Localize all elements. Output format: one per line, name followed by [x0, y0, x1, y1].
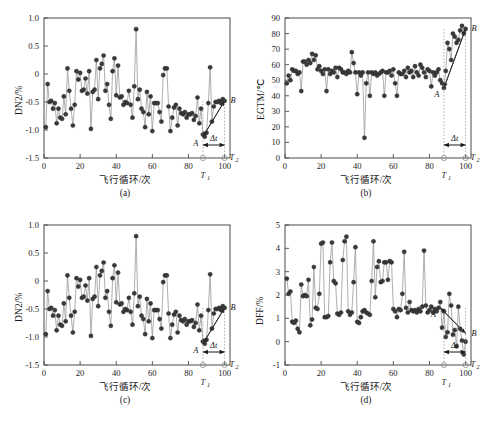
svg-text:40: 40 — [112, 368, 121, 378]
svg-text:0: 0 — [276, 153, 280, 163]
svg-text:30: 30 — [271, 106, 280, 116]
svg-text:80: 80 — [184, 368, 193, 378]
svg-text:-1: -1 — [273, 360, 280, 370]
panel-b: EGTM/℃ 飞行循环/次 (b) 0102030405060708090020… — [241, 0, 482, 211]
svg-text:3: 3 — [276, 267, 280, 277]
svg-text:100: 100 — [218, 368, 231, 378]
svg-text:1.0: 1.0 — [28, 220, 39, 230]
svg-text:A: A — [192, 139, 199, 148]
panel-c: DN2/% 飞行循环/次 (c) -1.5-1.0-0.500.51.00204… — [0, 207, 241, 418]
svg-text:0: 0 — [42, 161, 46, 171]
svg-text:-0.5: -0.5 — [25, 304, 39, 314]
svg-text:1: 1 — [448, 381, 451, 388]
svg-text:0: 0 — [42, 368, 46, 378]
svg-text:80: 80 — [425, 368, 434, 378]
panel-c-plot: -1.5-1.0-0.500.51.0020406080100ABΔtT1T2 — [0, 207, 241, 418]
svg-text:Δt: Δt — [209, 134, 218, 143]
svg-text:-1.0: -1.0 — [25, 332, 39, 342]
svg-text:Δt: Δt — [450, 341, 459, 350]
svg-text:100: 100 — [459, 161, 472, 171]
svg-text:0: 0 — [35, 69, 39, 79]
svg-text:1: 1 — [276, 313, 280, 323]
svg-text:0: 0 — [276, 337, 280, 347]
svg-text:5: 5 — [276, 220, 280, 230]
panel-a-plot: -1.5-1.0-0.500.51.0020406080100ABΔtT1T2 — [0, 0, 241, 211]
svg-text:Δt: Δt — [450, 134, 459, 143]
svg-text:100: 100 — [459, 368, 472, 378]
svg-text:0: 0 — [35, 276, 39, 286]
svg-text:50: 50 — [271, 75, 280, 85]
svg-text:Δt: Δt — [209, 341, 218, 350]
svg-text:80: 80 — [184, 161, 193, 171]
svg-text:20: 20 — [76, 368, 85, 378]
svg-text:2: 2 — [236, 363, 239, 370]
svg-text:T: T — [201, 171, 207, 180]
svg-text:60: 60 — [148, 161, 157, 171]
svg-text:20: 20 — [317, 161, 326, 171]
svg-text:60: 60 — [271, 60, 280, 70]
svg-text:-0.5: -0.5 — [25, 97, 39, 107]
svg-text:1: 1 — [207, 174, 210, 181]
svg-text:40: 40 — [271, 91, 280, 101]
svg-text:40: 40 — [353, 368, 362, 378]
svg-text:20: 20 — [271, 122, 280, 132]
svg-text:-1.5: -1.5 — [25, 153, 39, 163]
svg-text:60: 60 — [148, 368, 157, 378]
svg-text:20: 20 — [76, 161, 85, 171]
svg-text:2: 2 — [477, 363, 480, 370]
svg-text:A: A — [430, 310, 437, 319]
svg-text:2: 2 — [236, 156, 239, 163]
svg-text:B: B — [231, 96, 236, 105]
figure-container: DN2/% 飞行循环/次 (a) -1.5-1.0-0.500.51.00204… — [0, 0, 482, 422]
svg-text:A: A — [192, 346, 199, 355]
svg-text:80: 80 — [271, 29, 280, 39]
svg-text:T: T — [201, 378, 207, 387]
panel-a: DN2/% 飞行循环/次 (a) -1.5-1.0-0.500.51.00204… — [0, 0, 241, 211]
svg-text:0.5: 0.5 — [28, 41, 39, 51]
panel-d-plot: -1012345020406080100ABΔtT1T2 — [241, 207, 482, 418]
svg-text:B: B — [472, 24, 477, 33]
svg-text:T: T — [442, 171, 448, 180]
svg-text:60: 60 — [389, 161, 398, 171]
panel-d: DFF/% 飞行循环/次 (d) -1012345020406080100ABΔ… — [241, 207, 482, 418]
svg-text:80: 80 — [425, 161, 434, 171]
svg-text:A: A — [433, 90, 440, 99]
svg-text:2: 2 — [477, 156, 480, 163]
svg-text:70: 70 — [271, 44, 280, 54]
svg-text:0: 0 — [283, 161, 287, 171]
svg-text:1: 1 — [448, 174, 451, 181]
svg-text:1: 1 — [207, 381, 210, 388]
svg-text:40: 40 — [353, 161, 362, 171]
svg-text:60: 60 — [389, 368, 398, 378]
svg-text:10: 10 — [271, 137, 280, 147]
svg-text:0: 0 — [283, 368, 287, 378]
svg-text:T: T — [442, 378, 448, 387]
svg-text:B: B — [472, 329, 477, 338]
svg-text:4: 4 — [276, 243, 281, 253]
panel-b-plot: 0102030405060708090020406080100ABΔtT1T2 — [241, 0, 482, 211]
svg-text:90: 90 — [271, 13, 280, 23]
svg-text:2: 2 — [276, 290, 280, 300]
svg-text:1.0: 1.0 — [28, 13, 39, 23]
svg-text:-1.0: -1.0 — [25, 125, 39, 135]
svg-text:20: 20 — [317, 368, 326, 378]
svg-text:B: B — [231, 303, 236, 312]
svg-text:0.5: 0.5 — [28, 248, 39, 258]
svg-text:-1.5: -1.5 — [25, 360, 39, 370]
svg-text:40: 40 — [112, 161, 121, 171]
svg-text:100: 100 — [218, 161, 231, 171]
